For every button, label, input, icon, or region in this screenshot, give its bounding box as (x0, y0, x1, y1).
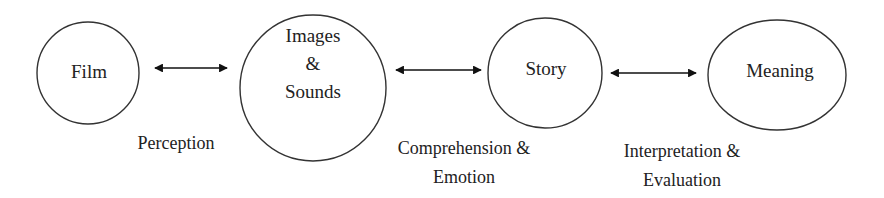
story-label-text: Story (525, 58, 566, 79)
perception-edge-label: Perception (138, 129, 215, 158)
meaning-label-text: Meaning (746, 60, 814, 81)
interpretation-text: Interpretation & (624, 137, 740, 166)
evaluation-text: Evaluation (624, 166, 740, 195)
comprehension-text: Comprehension & (398, 134, 531, 163)
film-label-text: Film (71, 61, 107, 82)
ampersand-line: & (285, 50, 341, 78)
emotion-text: Emotion (398, 163, 531, 192)
film-node-label: Film (71, 58, 107, 86)
images-sounds-node-label: Images & Sounds (285, 22, 341, 106)
perception-text: Perception (138, 129, 215, 158)
sounds-line: Sounds (285, 78, 341, 106)
meaning-node-label: Meaning (746, 57, 814, 85)
interpretation-evaluation-edge-label: Interpretation & Evaluation (624, 137, 740, 195)
film-process-diagram: Film Images & Sounds [data-name="images-… (0, 0, 884, 198)
images-line: Images (285, 22, 341, 50)
story-node-label: Story (525, 55, 566, 83)
comprehension-emotion-edge-label: Comprehension & Emotion (398, 134, 531, 192)
